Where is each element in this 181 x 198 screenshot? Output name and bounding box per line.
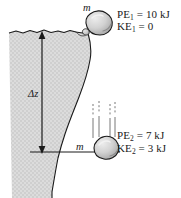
cliff-shape (9, 30, 91, 198)
mass-label-top: m (83, 2, 91, 13)
kinetic-energy-state2-label: KE2 = 3 kJ (117, 142, 166, 154)
pe1-value: = 10 kJ (134, 8, 170, 20)
pe2-value: = 7 kJ (134, 129, 164, 141)
motion-lines (93, 101, 115, 139)
falling-rock-energy-diagram: m m Δz PE1 = 10 kJ KE1 = 0 PE2 = 7 kJ KE… (0, 0, 181, 198)
kinetic-energy-state1-label: KE1 = 0 (117, 20, 153, 32)
ke2-value: = 3 kJ (136, 142, 166, 154)
mass-label-bottom: m (76, 141, 84, 152)
pe1-symbol: PE (117, 8, 130, 20)
height-difference-label: Δz (28, 88, 38, 99)
potential-energy-state1-label: PE1 = 10 kJ (117, 8, 170, 20)
ke1-subscript: 1 (132, 25, 136, 34)
rock-falling (94, 136, 119, 159)
potential-energy-state2-label: PE2 = 7 kJ (117, 129, 164, 141)
rock-top (86, 11, 112, 35)
ke2-subscript: 2 (132, 147, 136, 156)
ke1-value: = 0 (136, 20, 154, 32)
delta-z-text: Δz (28, 88, 38, 99)
pebble-at-cliff-edge (82, 29, 89, 35)
pe2-symbol: PE (117, 129, 130, 141)
ke1-symbol: KE (117, 20, 132, 32)
diagram-graphics (0, 0, 181, 198)
ke2-symbol: KE (117, 142, 132, 154)
